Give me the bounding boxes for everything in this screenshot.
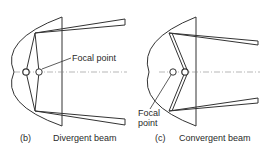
- focal-point-marker-c: [170, 69, 176, 75]
- diagram-canvas: [0, 0, 273, 153]
- focal-point-label-c-line2: point: [138, 118, 158, 128]
- caption-c: Convergent beam: [179, 133, 251, 143]
- focal-point-label-b: Focal point: [72, 53, 116, 63]
- panel-b-divergent-beam: [11, 17, 127, 126]
- focal-point-label-c-line1: Focal: [138, 108, 160, 118]
- panel-letter-c: (c): [155, 133, 166, 143]
- focal-point-marker-b: [36, 69, 42, 75]
- focal-point-leader-b: [42, 58, 71, 69]
- caption-b: Divergent beam: [53, 133, 117, 143]
- lamp-filament-b: [23, 69, 29, 75]
- panel-c-convergent-beam: [147, 17, 260, 126]
- focal-point-leader-c: [150, 75, 171, 109]
- lamp-filament-c: [182, 69, 188, 75]
- panel-letter-b: (b): [20, 133, 31, 143]
